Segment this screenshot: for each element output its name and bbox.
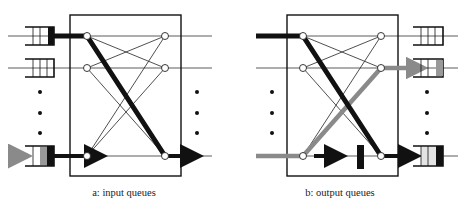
panel-a: a: input queues: [8, 15, 212, 198]
b-ellipsis-dots: [270, 90, 429, 135]
input-queue-3: [25, 146, 54, 166]
caption-b: b: output queues: [305, 187, 374, 198]
output-node-2: [162, 65, 169, 72]
b-gray-connection-path: [256, 68, 424, 156]
panel-b: b: output queues: [256, 15, 458, 198]
input-node-3: [84, 153, 91, 160]
caption-a: a: input queues: [92, 187, 156, 198]
input-node-2: [84, 65, 91, 72]
output-node-3: [162, 153, 169, 160]
output-node-1: [162, 33, 169, 40]
input-node-1: [84, 33, 91, 40]
switch-diagram: a: input queues: [0, 0, 468, 207]
b-blocking-bar: [357, 145, 364, 169]
ellipsis-dots: [38, 90, 199, 135]
